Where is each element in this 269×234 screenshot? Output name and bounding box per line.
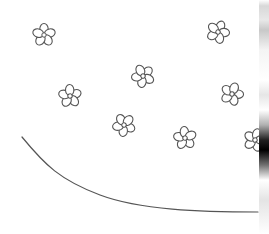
flower-icon <box>126 59 160 93</box>
flower-icon <box>32 23 57 46</box>
flower-icon <box>108 109 140 141</box>
flower-icon <box>220 81 244 106</box>
curved-line <box>22 137 258 212</box>
flowers-group <box>32 17 269 155</box>
page-edge-shadow <box>259 0 269 234</box>
flower-sketch <box>0 0 269 234</box>
flower-icon <box>168 121 202 155</box>
flower-icon <box>55 80 86 111</box>
sketch-canvas <box>0 0 269 234</box>
flower-icon <box>202 17 234 48</box>
